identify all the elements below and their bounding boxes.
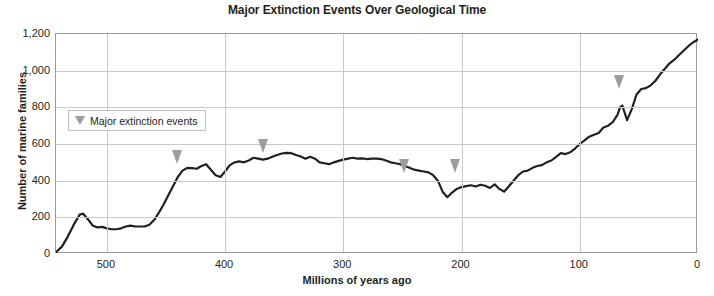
y-axis-tick-label: 400: [4, 175, 50, 186]
legend-item-label: Major extinction events: [90, 115, 197, 127]
gridline-vertical: [225, 34, 226, 252]
y-axis-tick-label: 1,000: [4, 65, 50, 76]
down-triangle-icon: [172, 150, 182, 164]
y-axis-tick-label: 600: [4, 138, 50, 149]
x-axis-tick-label: 100: [549, 258, 609, 270]
chart-container: Major Extinction Events Over Geological …: [0, 0, 714, 296]
gridline-horizontal: [56, 217, 696, 218]
gridline-vertical: [343, 34, 344, 252]
gridline-horizontal: [56, 144, 696, 145]
plot-area: [55, 33, 697, 253]
gridline-vertical: [107, 34, 108, 252]
y-axis-tick-label: 800: [4, 101, 50, 112]
x-axis-tick-label: 400: [194, 258, 254, 270]
x-axis-title: Millions of years ago: [0, 274, 714, 286]
extinction-marker-end-cretaceous-extinction: [614, 75, 624, 89]
gridline-horizontal: [56, 107, 696, 108]
y-axis-tick-label: 0: [4, 248, 50, 259]
x-axis-tick-label: 200: [431, 258, 491, 270]
x-axis-tick-label: 500: [76, 258, 136, 270]
y-axis-tick-label: 200: [4, 211, 50, 222]
chart-title: Major Extinction Events Over Geological …: [0, 3, 714, 17]
extinction-marker-late-ordovician-extinction: [172, 150, 182, 164]
x-axis-tick-label: 0: [667, 258, 714, 270]
gridline-vertical: [580, 34, 581, 252]
down-triangle-icon: [399, 159, 409, 173]
down-triangle-icon: [75, 116, 85, 125]
down-triangle-icon: [258, 139, 268, 153]
y-axis-ticks: 02004006008001,0001,200: [0, 0, 50, 296]
extinction-marker-late-devonian-extinction: [258, 139, 268, 153]
gridline-horizontal: [56, 71, 696, 72]
down-triangle-icon: [450, 159, 460, 173]
x-axis-tick-label: 300: [312, 258, 372, 270]
extinction-marker-end-triassic-extinction: [450, 159, 460, 173]
extinction-marker-end-permian-extinction: [399, 159, 409, 173]
gridline-horizontal: [56, 181, 696, 182]
down-triangle-icon: [614, 75, 624, 89]
y-axis-tick-label: 1,200: [4, 28, 50, 39]
gridline-vertical: [462, 34, 463, 252]
legend: Major extinction events: [68, 110, 206, 131]
